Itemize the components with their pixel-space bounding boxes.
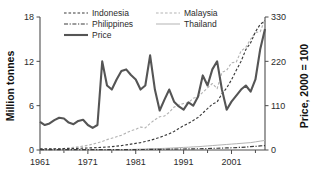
y2-tick-label: 220 (271, 57, 286, 67)
legend-label-malaysia: Malaysia (184, 8, 218, 18)
y-tick-label: 6 (29, 101, 34, 111)
y-tick-label: 18 (24, 12, 34, 22)
x-tick-label: 1991 (174, 157, 194, 167)
x-tick-label: 1961 (30, 157, 50, 167)
y-tick-label: 0 (29, 145, 34, 155)
legend-label-price: Price (92, 30, 112, 40)
x-tick-label: 2001 (221, 157, 241, 167)
x-tick-label: 1981 (126, 157, 146, 167)
chart-figure: 061218011022033019611971198119912001 Ind… (0, 0, 319, 186)
y2-tick-label: 0 (271, 145, 276, 155)
right-axis-title: Price, 2000 = 100 (298, 44, 310, 129)
chart-canvas: 061218011022033019611971198119912001 Ind… (0, 0, 319, 186)
legend-label-thailand: Thailand (184, 19, 217, 29)
legend-label-indonesia: Indonesia (92, 8, 129, 18)
legend-label-philippines: Philippines (92, 19, 133, 29)
y-tick-label: 12 (24, 57, 34, 67)
y2-tick-label: 110 (271, 101, 285, 111)
x-tick-label: 1971 (78, 157, 98, 167)
y2-tick-label: 330 (271, 12, 286, 22)
left-axis-title: Million tonnes (4, 51, 16, 122)
